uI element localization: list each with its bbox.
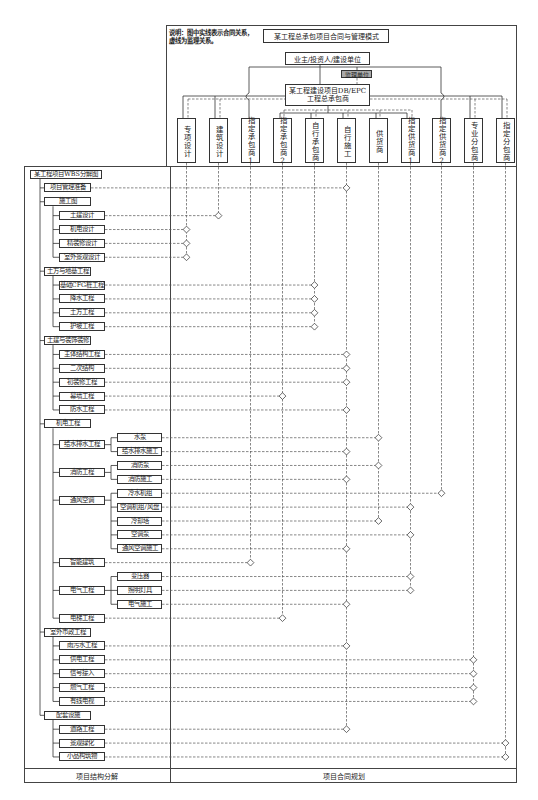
column-label: 指定承包商1 bbox=[246, 116, 254, 166]
assignment-diamond-icon bbox=[311, 282, 318, 289]
wbs-subgroup-node: 室外景观设计 bbox=[59, 253, 105, 262]
wbs-task-node: 空调机组/风盘 bbox=[117, 503, 162, 512]
wbs-subgroup-node: 消防工程 bbox=[59, 468, 105, 477]
wbs-node-label: 通风空调施工 bbox=[122, 545, 158, 552]
wbs-group-node: 土建与装饰装修 bbox=[44, 336, 91, 345]
wbs-node-label: 基础CFG桩工程 bbox=[60, 282, 104, 289]
column-self-construction: 自行施工 bbox=[337, 118, 356, 163]
wbs-node-label: 消防泵 bbox=[131, 462, 149, 469]
column-nominated-subcontractor: 指定分包商 bbox=[496, 118, 515, 163]
wbs-task-node: 空调泵 bbox=[117, 530, 162, 539]
wbs-node-label: 水泵 bbox=[134, 434, 146, 441]
wbs-subgroup-node: 防水工程 bbox=[59, 405, 105, 414]
wbs-node-label: 土方与地基工程 bbox=[47, 268, 89, 275]
wbs-subgroup-node: 小品构筑物 bbox=[59, 752, 105, 761]
column-supplier: 供货商 bbox=[369, 118, 388, 163]
assignment-diamond-icon bbox=[407, 504, 414, 511]
column-label: 指定承包商2 bbox=[278, 116, 286, 166]
column-label: 供货商 bbox=[374, 129, 382, 153]
wbs-subgroup-node: 土方工程 bbox=[59, 308, 105, 317]
assignment-diamond-icon bbox=[183, 240, 190, 247]
footer-structure-breakdown: 项目结构分解 bbox=[24, 768, 170, 783]
wbs-node-label: 主体结构工程 bbox=[64, 351, 100, 358]
wbs-subgroup-node: 信号接入 bbox=[59, 669, 105, 678]
footer-contract-planning: 项目合同规划 bbox=[170, 768, 517, 783]
assignment-diamond-icon bbox=[407, 587, 414, 594]
wbs-group-node: 机电工程 bbox=[44, 419, 91, 428]
wbs-task-node: 冷却塔 bbox=[117, 517, 162, 526]
wbs-subgroup-node: 有线电视 bbox=[59, 697, 105, 706]
assignment-diamond-icon bbox=[407, 573, 414, 580]
wbs-node-label: 小品构筑物 bbox=[67, 753, 97, 760]
wbs-subgroup-node: 基础CFG桩工程 bbox=[59, 281, 105, 290]
epc-contractor-node: 某工程建设项目DB/EPC 工程总承包商 bbox=[285, 84, 370, 106]
assignment-diamond-icon bbox=[470, 698, 477, 705]
assignment-diamond-icon bbox=[470, 670, 477, 677]
wbs-task-node: 消防施工 bbox=[117, 475, 162, 484]
contract-management-diagram: 说明：图中实线表示合同关系， 虚线为监理关系。 某工程总承包项目合同与管理模式 … bbox=[0, 0, 538, 800]
wbs-node-label: 室外景观设计 bbox=[64, 254, 100, 261]
wbs-task-node: 消防泵 bbox=[117, 461, 162, 470]
wbs-subgroup-node: 精装修设计 bbox=[59, 239, 105, 248]
legend-note-line-2: 虚线为监理关系。 bbox=[169, 37, 253, 45]
wbs-group-node: 项目管理准备 bbox=[44, 183, 91, 192]
column-label: 专项设计 bbox=[182, 125, 190, 157]
wbs-subgroup-node: 护坡工程 bbox=[59, 322, 105, 331]
column-label: 指定供货商1 bbox=[406, 116, 414, 166]
wbs-node-label: 通风空调 bbox=[70, 497, 94, 504]
assignment-diamond-icon bbox=[502, 754, 509, 761]
owner-node-label: 业主/投资人/建设单位 bbox=[294, 54, 362, 64]
assignment-diamond-icon bbox=[438, 490, 445, 497]
footer-right-label: 项目合同规划 bbox=[323, 771, 365, 781]
column-label: 指定供货商2 bbox=[437, 116, 445, 166]
wbs-node-label: 信号接入 bbox=[70, 670, 94, 677]
wbs-node-label: 消防施工 bbox=[128, 476, 152, 483]
wbs-node-label: 照明灯具 bbox=[128, 587, 152, 594]
assignment-diamond-icon bbox=[375, 518, 382, 525]
owner-node: 业主/投资人/建设单位 bbox=[285, 52, 370, 65]
column-label: 指定分包商 bbox=[501, 121, 509, 161]
wbs-group-node: 土方与地基工程 bbox=[44, 267, 91, 276]
wbs-subgroup-node: 机电设计 bbox=[59, 225, 105, 234]
wbs-node-label: 智能建筑 bbox=[70, 559, 94, 566]
wbs-group-node: 室外市政工程 bbox=[44, 628, 91, 637]
column-special-design: 专项设计 bbox=[177, 118, 196, 163]
assignment-diamond-icon bbox=[343, 601, 350, 608]
column-label: 建筑设计 bbox=[214, 125, 222, 157]
wbs-node-label: 冷却塔 bbox=[131, 518, 149, 525]
assignment-diamond-icon bbox=[502, 740, 509, 747]
column-nominated-supplier-1: 指定供货商1 bbox=[401, 118, 420, 163]
wbs-node-label: 电梯工程 bbox=[70, 615, 94, 622]
epc-contractor-label-line-2: 工程总承包商 bbox=[307, 95, 349, 103]
column-label: 自行承包商 bbox=[310, 121, 318, 161]
assignment-diamond-icon bbox=[215, 212, 222, 219]
wbs-node-label: 土建与装饰装修 bbox=[47, 337, 89, 344]
wbs-node-label: 道路工程 bbox=[70, 726, 94, 733]
wbs-node-label: 幕墙工程 bbox=[70, 393, 94, 400]
column-nominated-contractor-1: 指定承包商1 bbox=[241, 118, 260, 163]
wbs-subgroup-node: 电气工程 bbox=[59, 586, 105, 595]
assignment-diamond-icon bbox=[343, 365, 350, 372]
wbs-subgroup-node: 供电工程 bbox=[59, 655, 105, 664]
assignment-diamond-icon bbox=[375, 434, 382, 441]
assignment-diamond-icon bbox=[343, 726, 350, 733]
wbs-subgroup-node: 初装修工程 bbox=[59, 378, 105, 387]
wbs-node-label: 配套设施 bbox=[56, 712, 80, 719]
wbs-subgroup-node: 景观绿化 bbox=[59, 739, 105, 748]
wbs-task-node: 给水排水施工 bbox=[117, 447, 162, 456]
assignment-diamond-icon bbox=[343, 407, 350, 414]
wbs-node-label: 初装修工程 bbox=[67, 379, 97, 386]
assignment-diamond-icon bbox=[407, 531, 414, 538]
column-label: 自行施工 bbox=[342, 125, 350, 157]
wbs-node-label: 防水工程 bbox=[70, 406, 94, 413]
column-supervision-lines bbox=[187, 163, 506, 757]
wbs-node-label: 雨污水工程 bbox=[67, 642, 97, 649]
legend-note: 说明：图中实线表示合同关系， 虚线为监理关系。 bbox=[169, 29, 253, 44]
wbs-node-label: 某工程项目WBS分解图 bbox=[34, 171, 98, 178]
epc-contractor-label-line-1: 某工程建设项目DB/EPC bbox=[289, 87, 366, 95]
wbs-node-label: 精装修设计 bbox=[67, 240, 97, 247]
assignment-diamond-icon bbox=[279, 393, 286, 400]
wbs-node-label: 燃气工程 bbox=[70, 684, 94, 691]
wbs-subgroup-node: 道路工程 bbox=[59, 725, 105, 734]
wbs-node-label: 室外市政工程 bbox=[50, 629, 86, 636]
